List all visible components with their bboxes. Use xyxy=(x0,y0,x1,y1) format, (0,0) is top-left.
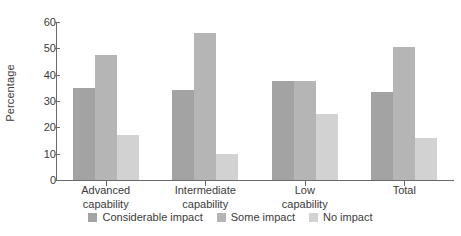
x-axis-label: Total xyxy=(355,184,455,198)
y-axis-label-text: Percentage xyxy=(4,64,16,121)
bar[interactable] xyxy=(393,47,415,180)
legend-item[interactable]: Some impact xyxy=(217,211,295,223)
legend-label: Considerable impact xyxy=(102,211,202,223)
x-axis-line xyxy=(56,180,454,181)
bar[interactable] xyxy=(194,33,216,180)
chart-legend: Considerable impactSome impactNo impact xyxy=(0,206,461,228)
legend-label: No impact xyxy=(323,211,373,223)
y-axis-tick-label: 10 xyxy=(34,148,56,160)
y-axis-tick-labels: 0102030405060 xyxy=(26,18,56,180)
bar-group xyxy=(371,18,437,180)
bar[interactable] xyxy=(172,90,194,180)
bar[interactable] xyxy=(73,88,95,180)
y-axis-tick-label: 50 xyxy=(34,42,56,54)
x-axis-label-line: Low xyxy=(255,184,355,198)
bar-groups xyxy=(56,18,454,180)
legend-swatch-icon xyxy=(88,213,97,222)
y-axis-label: Percentage xyxy=(0,0,20,185)
bar[interactable] xyxy=(117,135,139,180)
bar[interactable] xyxy=(371,92,393,180)
bar[interactable] xyxy=(316,114,338,180)
y-axis-tick-label: 0 xyxy=(34,174,56,186)
y-axis-tick-label: 40 xyxy=(34,69,56,81)
y-axis-tick-label: 30 xyxy=(34,95,56,107)
y-axis-tick-label: 60 xyxy=(34,16,56,28)
legend-label: Some impact xyxy=(231,211,295,223)
bar-chart: Percentage 0102030405060 Advancedcapabil… xyxy=(0,0,461,236)
x-axis-label-line: Advanced xyxy=(56,184,156,198)
bar[interactable] xyxy=(216,154,238,180)
legend-item[interactable]: Considerable impact xyxy=(88,211,202,223)
legend-swatch-icon xyxy=(309,213,318,222)
legend-swatch-icon xyxy=(217,213,226,222)
bar[interactable] xyxy=(294,81,316,180)
x-axis-label-line: Total xyxy=(355,184,455,198)
bar[interactable] xyxy=(272,81,294,180)
bar-group xyxy=(73,18,139,180)
bar-group xyxy=(272,18,338,180)
bar[interactable] xyxy=(95,55,117,180)
bar[interactable] xyxy=(415,138,437,180)
plot-area xyxy=(56,18,454,180)
bar-group xyxy=(172,18,238,180)
legend-item[interactable]: No impact xyxy=(309,211,373,223)
x-axis-label-line: Intermediate xyxy=(156,184,256,198)
y-axis-tick-label: 20 xyxy=(34,121,56,133)
